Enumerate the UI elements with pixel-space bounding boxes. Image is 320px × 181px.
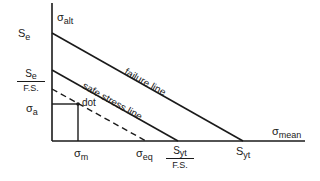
tick-sigma-eq: σeq [136, 148, 153, 160]
tick-sigma-a: σa [26, 103, 38, 115]
tick-se-over-fs: Se F.S. [17, 68, 45, 94]
tick-sigma-m-symbol: σ [74, 147, 81, 159]
y-axis-label-subscript: alt [64, 16, 74, 26]
x-axis-label: σmean [272, 126, 301, 138]
tick-se: Se [18, 28, 30, 40]
x-axis-label-symbol: σ [272, 125, 279, 137]
tick-syt-over-fs-denominator: F.S. [166, 159, 194, 171]
tick-sigma-eq-subscript: eq [143, 152, 153, 162]
dot-label: dot [82, 97, 96, 108]
tick-syt-over-fs: Syt F.S. [166, 145, 194, 171]
tick-syt-over-fs-numerator: Syt [166, 145, 194, 159]
tick-se-over-fs-denominator: F.S. [17, 82, 45, 94]
num-subscript: e [32, 71, 37, 81]
operating-point-dot [76, 102, 80, 106]
tick-sigma-a-subscript: a [33, 107, 38, 117]
tick-syt: Syt [236, 146, 250, 158]
tick-se-subscript: e [25, 32, 30, 42]
num-symbol: S [25, 68, 32, 79]
y-axis-label-symbol: σ [57, 11, 64, 23]
tick-sigma-m-subscript: m [81, 152, 89, 162]
tick-sigma-m: σm [74, 148, 88, 160]
tick-sigma-eq-symbol: σ [136, 147, 143, 159]
tick-syt-subscript: yt [243, 150, 250, 160]
tick-se-over-fs-numerator: Se [17, 68, 45, 82]
num-symbol: S [173, 145, 180, 156]
num-subscript: yt [180, 148, 187, 158]
y-axis-label: σalt [57, 12, 73, 24]
tick-sigma-a-symbol: σ [26, 102, 33, 114]
x-axis-label-subscript: mean [279, 130, 302, 140]
